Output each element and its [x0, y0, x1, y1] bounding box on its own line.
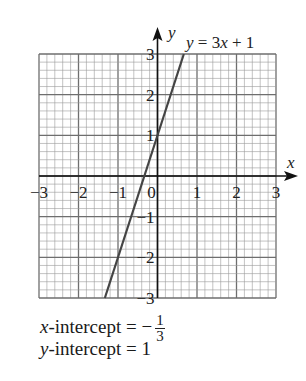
graph: −3−2−10123321−1−2−3 y x y = 3x + 1: [0, 0, 306, 310]
x-tick-label: −3: [30, 183, 48, 202]
y-intercept-text: -intercept = 1: [48, 338, 151, 359]
y-tick-label: 3: [146, 45, 155, 64]
y-tick-label: −1: [136, 208, 154, 227]
x-tick-label: 3: [272, 183, 281, 202]
x-tick-label: −1: [109, 183, 127, 202]
intercept-notes: x-intercept = −13 y-intercept = 1: [40, 313, 165, 363]
x-tick-label: 1: [193, 183, 202, 202]
x-intercept-text: -intercept = −: [48, 316, 152, 337]
x-tick-label: −2: [69, 183, 87, 202]
x-intercept-note: x-intercept = −13: [40, 313, 165, 337]
y-tick-label: −3: [136, 289, 154, 308]
y-tick-label: 1: [146, 126, 155, 145]
y-axis-label: y: [166, 23, 176, 42]
x-axis-label: x: [286, 153, 295, 172]
equation-label: y = 3x + 1: [184, 33, 254, 52]
y-intercept-note: y-intercept = 1: [40, 339, 165, 363]
y-tick-label: −2: [136, 248, 154, 267]
x-tick-label: 0: [147, 183, 156, 202]
x-tick-label: 2: [232, 183, 241, 202]
fraction-numerator: 1: [155, 313, 165, 329]
y-tick-label: 2: [146, 86, 155, 105]
